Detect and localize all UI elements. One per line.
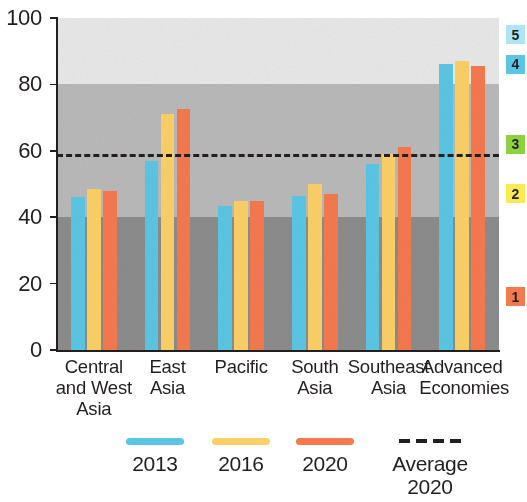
y-axis-tick-label: 40	[18, 206, 42, 228]
background-band	[57, 217, 499, 350]
bar	[161, 114, 175, 350]
side-badge-3[interactable]: 3	[506, 135, 525, 154]
side-badge-1[interactable]: 1	[506, 287, 525, 306]
y-axis-tick-label: 0	[30, 339, 42, 361]
y-axis-line	[56, 18, 58, 351]
legend-dashed-swatch	[399, 438, 461, 445]
side-badge-4[interactable]: 4	[506, 55, 525, 74]
bar	[455, 61, 469, 350]
bar	[218, 206, 232, 350]
legend-item[interactable]: 2020	[288, 438, 362, 475]
y-axis-tick-label: 100	[6, 7, 42, 29]
y-axis-tick	[50, 349, 58, 351]
bar	[250, 201, 264, 350]
bar	[177, 109, 191, 350]
bar	[87, 189, 101, 350]
background-band	[57, 18, 499, 84]
average-line	[57, 154, 499, 157]
legend-label: 2020	[288, 452, 362, 475]
bar	[382, 154, 396, 350]
bar	[308, 184, 322, 350]
y-axis-tick	[50, 283, 58, 285]
bar	[439, 64, 453, 350]
y-axis-tick	[50, 216, 58, 218]
plot-area	[57, 18, 499, 350]
background-band	[57, 84, 499, 217]
y-axis-tick-label: 20	[18, 273, 42, 295]
y-axis-tick	[50, 17, 58, 19]
bar	[324, 194, 338, 350]
bar	[145, 161, 159, 350]
bar-chart: 020406080100 Centraland WestAsiaEastAsia…	[0, 0, 527, 502]
bar	[366, 164, 380, 350]
legend-item[interactable]: Average2020	[380, 438, 480, 498]
legend-item[interactable]: 2016	[204, 438, 278, 475]
x-axis-line	[56, 350, 500, 352]
y-axis-tick-label: 80	[18, 73, 42, 95]
legend-item[interactable]: 2013	[118, 438, 192, 475]
legend-label: 2016	[204, 452, 278, 475]
bar	[234, 201, 248, 350]
legend-label: 2013	[118, 452, 192, 475]
side-badge-2[interactable]: 2	[506, 184, 525, 203]
x-axis-group-label: AdvancedEconomies	[419, 356, 505, 398]
side-badge-5[interactable]: 5	[506, 25, 525, 44]
y-axis-tick	[50, 84, 58, 86]
y-axis-tick-label: 60	[18, 140, 42, 162]
bar	[471, 66, 485, 350]
bar	[103, 191, 117, 350]
legend-color-swatch	[212, 438, 270, 445]
y-axis-tick	[50, 150, 58, 152]
legend-label: Average2020	[380, 452, 480, 498]
legend-color-swatch	[296, 438, 354, 445]
legend-color-swatch	[126, 438, 184, 445]
bar	[398, 147, 412, 350]
bar	[292, 196, 306, 350]
bar	[71, 197, 85, 350]
chart-legend: 201320162020Average2020	[0, 438, 527, 502]
